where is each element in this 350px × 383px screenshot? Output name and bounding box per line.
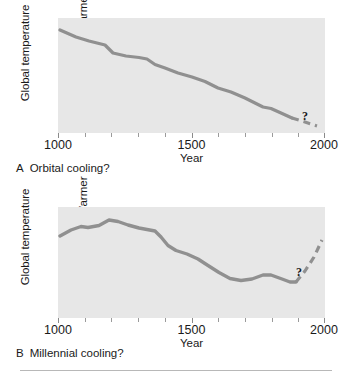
panel-caption-a: AOrbital cooling?: [16, 162, 110, 174]
panel-orbital-cooling: Global temperature Colder Warmer ?: [0, 0, 350, 185]
x-tick-label-1000-b: 1000: [44, 323, 72, 337]
panel-millennial-cooling: Global temperature Colder Warmer ?: [0, 185, 350, 360]
uncertainty-marker-a: ?: [302, 109, 308, 124]
y-axis-title-b: Global temperature: [19, 175, 31, 300]
plot-area-a: ?: [58, 18, 325, 133]
panel-caption-b: BMillennial cooling?: [16, 347, 124, 359]
chart-svg-b: [58, 207, 325, 318]
x-tick-label-1500-b: 1500: [178, 323, 206, 337]
chart-svg-a: [58, 18, 325, 133]
panel-letter-a: A: [16, 162, 24, 174]
panel-caption-text-a: Orbital cooling?: [30, 162, 110, 174]
figure-root: Global temperature Colder Warmer ?: [0, 0, 350, 383]
plot-area-b: ?: [58, 207, 325, 318]
x-tick-label-2000-a: 2000: [310, 138, 338, 152]
x-tick-label-1500-a: 1500: [178, 138, 206, 152]
panel-letter-b: B: [16, 347, 24, 359]
x-tick-label-2000-b: 2000: [310, 323, 338, 337]
panel-caption-text-b: Millennial cooling?: [30, 347, 124, 359]
series-observed-a: [60, 30, 292, 118]
y-axis-title-a: Global temperature: [19, 0, 31, 116]
footer-divider: [20, 370, 332, 371]
uncertainty-marker-b: ?: [296, 265, 302, 280]
series-observed-b: [60, 220, 296, 282]
x-tick-label-1000-a: 1000: [44, 138, 72, 152]
